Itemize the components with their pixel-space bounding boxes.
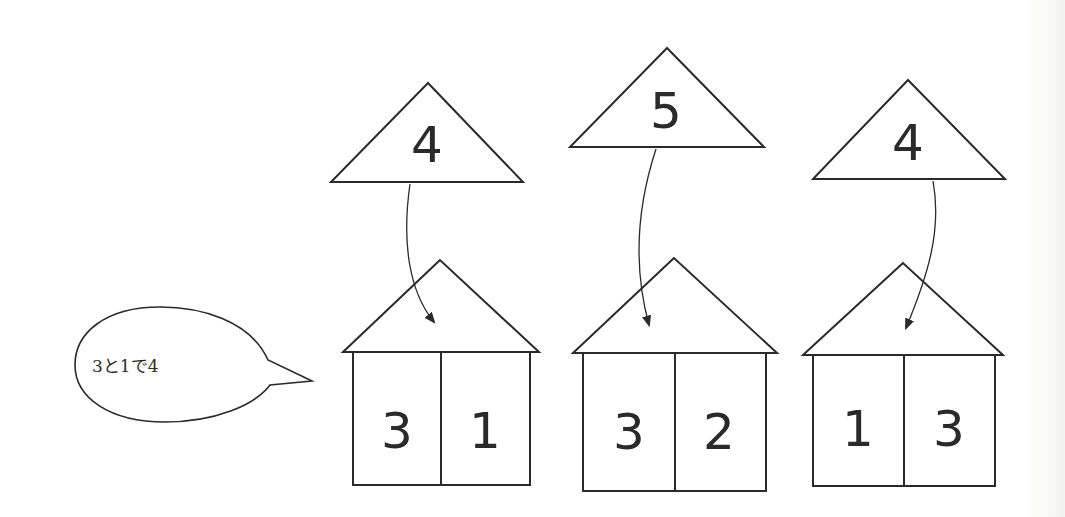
group-2: 5 3 2 bbox=[570, 48, 777, 491]
speech-bubble-text: 3と1で4 bbox=[92, 356, 158, 376]
total-number: 5 bbox=[650, 82, 682, 140]
arrow-icon bbox=[407, 184, 434, 322]
house-roof bbox=[343, 260, 539, 352]
group-1: 4 3 1 bbox=[331, 83, 539, 485]
right-part-number: 1 bbox=[469, 402, 501, 460]
number-composition-diagram: 3と1で4 4 3 1 5 3 2 4 bbox=[0, 0, 1065, 517]
speech-bubble: 3と1で4 bbox=[75, 307, 312, 422]
left-part-number: 3 bbox=[381, 402, 413, 460]
left-part-number: 1 bbox=[842, 400, 874, 458]
house-roof bbox=[803, 263, 1003, 355]
total-number: 4 bbox=[411, 116, 443, 174]
right-part-number: 2 bbox=[703, 403, 735, 461]
arrow-icon bbox=[639, 149, 656, 325]
total-number: 4 bbox=[892, 114, 924, 172]
house-roof bbox=[573, 258, 777, 353]
group-3: 4 1 3 bbox=[803, 80, 1005, 486]
arrow-icon bbox=[906, 181, 936, 328]
diagram-canvas: 3と1で4 4 3 1 5 3 2 4 bbox=[0, 0, 1065, 517]
right-part-number: 3 bbox=[933, 400, 965, 458]
left-part-number: 3 bbox=[613, 403, 645, 461]
